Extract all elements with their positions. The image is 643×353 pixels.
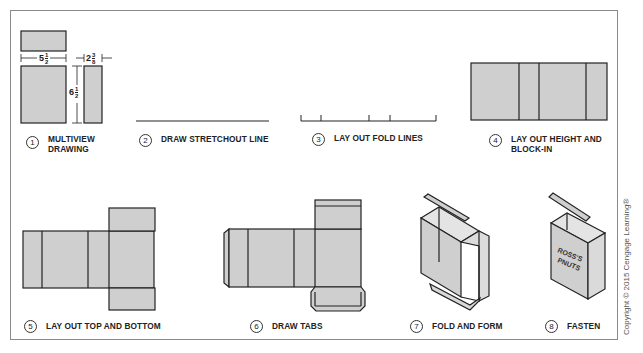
folded-box-open bbox=[421, 194, 489, 310]
dimension-depth: 238 bbox=[85, 52, 96, 65]
multiview-drawing bbox=[21, 31, 102, 123]
step-number-badge: 2 bbox=[139, 134, 152, 147]
dimension-height: 612 bbox=[69, 86, 78, 99]
step-number-badge: 6 bbox=[250, 320, 263, 333]
step-7-caption: 7 FOLD AND FORM bbox=[410, 322, 503, 332]
step-number-badge: 3 bbox=[312, 133, 325, 146]
pattern-development-illustration: ROSS'S PNUTS bbox=[0, 0, 643, 353]
step-5-caption: 5 LAY OUT TOP AND BOTTOM bbox=[24, 322, 161, 332]
step-3-caption: 3 LAY OUT FOLD LINES bbox=[312, 134, 423, 144]
top-bottom-layout bbox=[23, 208, 155, 310]
step-number-badge: 7 bbox=[410, 320, 423, 333]
tabs-layout bbox=[224, 200, 365, 311]
step-number-badge: 1 bbox=[26, 136, 39, 149]
block-in-panels bbox=[471, 63, 607, 120]
fold-lines bbox=[301, 115, 436, 121]
step-2-caption: 2 DRAW STRETCHOUT LINE bbox=[139, 135, 269, 145]
step-1-caption: 1 MULTIVIEW DRAWING bbox=[26, 135, 95, 154]
finished-box bbox=[549, 193, 605, 299]
step-4-caption: 4 LAY OUT HEIGHT AND BLOCK-IN bbox=[489, 135, 602, 154]
step-8-caption: 8 FASTEN bbox=[545, 322, 600, 332]
step-number-badge: 4 bbox=[489, 134, 502, 147]
step-number-badge: 8 bbox=[545, 320, 558, 333]
dimension-width: 512 bbox=[37, 52, 50, 65]
step-6-caption: 6 DRAW TABS bbox=[250, 322, 323, 332]
copyright-notice: Copyright © 2015 Cengage Learning® bbox=[622, 199, 631, 335]
step-number-badge: 5 bbox=[24, 320, 37, 333]
